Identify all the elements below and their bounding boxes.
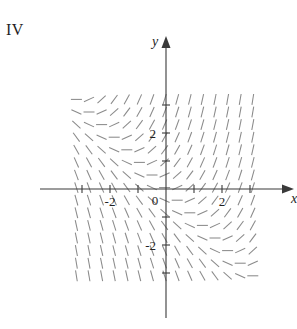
slope-segment: [99, 183, 103, 193]
slope-segment: [88, 208, 91, 219]
y-tick-label-2: 2: [150, 126, 157, 141]
slope-segment: [137, 94, 141, 104]
slope-segment: [75, 245, 77, 256]
slope-segment: [113, 258, 115, 269]
slope-segment: [149, 221, 154, 231]
slope-segment: [84, 97, 94, 102]
slope-segment: [237, 221, 244, 230]
slope-segment: [175, 271, 179, 281]
slope-segment: [200, 170, 205, 180]
slope-segment: [212, 183, 217, 193]
slope-segment: [138, 258, 141, 269]
slope-segment: [101, 270, 103, 281]
slope-segment: [100, 245, 102, 256]
slope-segment: [252, 94, 254, 105]
tick-label-group: -22-220yx: [105, 34, 297, 253]
slope-segment: [88, 233, 90, 244]
slope-segment: [87, 182, 91, 192]
slope-segment: [74, 145, 79, 155]
slope-segment: [226, 119, 228, 130]
slope-segment: [176, 107, 179, 117]
slope-segment: [84, 122, 94, 127]
slope-segment: [148, 146, 156, 153]
slope-segment: [251, 157, 254, 168]
y-tick-label-neg2: -2: [145, 238, 156, 253]
slope-segment: [226, 145, 229, 156]
slope-segment: [161, 221, 168, 230]
slope-segment: [201, 107, 204, 118]
slope-segment: [200, 271, 205, 281]
slope-segment: [176, 94, 179, 105]
slope-segment: [249, 247, 257, 254]
slope-segment: [72, 121, 80, 128]
slope-segment: [125, 220, 129, 230]
slope-segment: [98, 158, 105, 167]
slope-segment: [136, 196, 143, 205]
slope-segment: [251, 170, 254, 181]
slope-segment: [150, 94, 154, 104]
slope-segment: [200, 145, 204, 155]
slope-segment: [225, 183, 229, 193]
slope-segment: [185, 198, 195, 203]
slope-segment: [238, 195, 242, 205]
slope-segment: [136, 120, 143, 129]
slope-segment: [251, 195, 255, 205]
slope-segment: [188, 107, 191, 118]
slope-segment: [239, 170, 242, 180]
slope-segment: [98, 96, 106, 103]
slope-segment: [124, 183, 131, 192]
slope-segment: [85, 134, 93, 141]
slope-segment: [110, 159, 118, 166]
slope-segment: [187, 246, 194, 255]
slope-field-plot: -22-220yx: [0, 0, 297, 329]
slope-segment: [75, 182, 78, 192]
slope-segment: [74, 170, 78, 180]
slope-segment: [134, 148, 144, 153]
slope-segment: [88, 258, 90, 269]
slope-segment: [235, 274, 245, 279]
slope-segment: [238, 208, 243, 218]
slope-segment: [224, 272, 232, 279]
slope-segment: [75, 220, 77, 231]
slope-segment: [86, 158, 91, 168]
slope-segment: [137, 220, 141, 230]
slope-segment: [197, 211, 207, 216]
slope-segment: [172, 211, 182, 216]
slope-segment: [175, 145, 180, 155]
slope-segment: [225, 195, 230, 205]
slope-segment: [109, 122, 119, 127]
slope-segment: [113, 233, 116, 244]
slope-segment: [175, 132, 179, 142]
slope-segment: [214, 107, 216, 118]
slope-segment: [250, 221, 255, 231]
slope-segment: [88, 220, 91, 231]
slope-segment: [174, 158, 181, 167]
slope-segment: [137, 107, 142, 117]
slope-segment: [111, 171, 118, 180]
slope-segment: [188, 271, 192, 281]
slope-segment: [252, 144, 254, 155]
slope-segment: [75, 207, 78, 218]
slope-segment: [175, 258, 179, 268]
slope-field-figure: IV -22-220yx: [0, 0, 297, 329]
x-tick-label-2: 2: [219, 194, 226, 209]
slope-segment: [113, 270, 115, 281]
slope-segment: [150, 258, 153, 268]
slope-segment: [212, 196, 219, 205]
slope-segment: [100, 208, 103, 218]
slope-segment: [251, 182, 254, 192]
slope-segment: [138, 270, 141, 281]
slope-segment: [198, 197, 206, 204]
slope-segment: [122, 135, 132, 140]
slope-segment: [199, 183, 206, 192]
slope-segment: [125, 233, 128, 243]
slope-segment: [76, 270, 78, 281]
y-axis-label: y: [150, 34, 159, 49]
slope-segment: [150, 107, 154, 117]
slope-segment: [122, 160, 132, 165]
slope-segment: [99, 170, 104, 180]
slope-segment: [126, 270, 128, 281]
slope-segment: [75, 195, 78, 206]
slope-segment: [111, 95, 118, 104]
slope-segment: [151, 271, 154, 282]
